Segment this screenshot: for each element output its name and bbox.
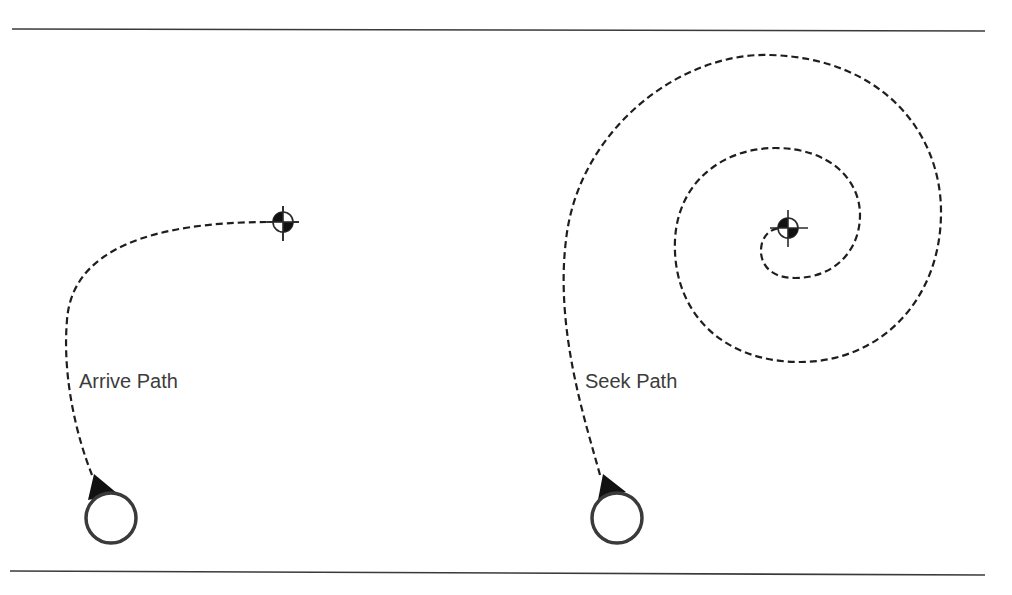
arrive-path-line [66, 222, 270, 475]
arrive-path-label: Arrive Path [79, 370, 178, 392]
arrive-path-group: Arrive Path [66, 206, 299, 543]
bottom-divider [10, 571, 985, 575]
steering-diagram: Arrive Path Seek Path [0, 0, 1012, 595]
top-divider [12, 29, 985, 31]
agent-circle-with-heading-icon [592, 474, 642, 543]
seek-path-label: Seek Path [585, 370, 677, 392]
seek-path-line [564, 55, 941, 475]
agent-circle-with-heading-icon [86, 474, 136, 543]
crosshair-target-icon [770, 210, 808, 247]
seek-path-group: Seek Path [564, 55, 941, 543]
crosshair-target-icon [267, 206, 299, 241]
